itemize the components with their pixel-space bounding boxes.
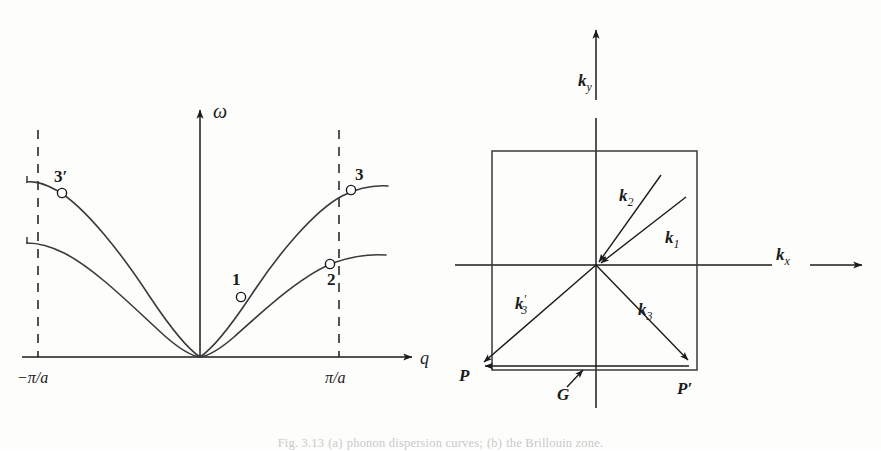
caption-part-a-marker: (a) (328, 436, 342, 450)
caption-part-a-text: phonon dispersion curves; (347, 436, 483, 450)
omega-axis-label: ω (213, 100, 227, 122)
marker-point-2[interactable] (325, 259, 334, 268)
ky-axis-label-sub: y (586, 80, 593, 94)
panel-b-group: ky kx k2 k1 k3 k′3 P (455, 30, 862, 408)
point-P-prime-label: P′ (676, 379, 692, 398)
caption-part-b-marker: (b) (487, 436, 502, 450)
q-axis-label: q (420, 348, 429, 368)
zone-boundary-left-label: −π/a (17, 369, 48, 386)
marker-point-3-prime[interactable] (57, 188, 66, 197)
caption-part-b-text: the Brillouin zone. (506, 436, 603, 450)
vector-k3-label-sub: 3 (646, 309, 653, 323)
vector-k1-label: k1 (665, 228, 680, 251)
panel-a-group: ω q −π/a π/a 3′ 3 1 2 (17, 100, 429, 386)
ky-axis-label: ky (578, 71, 593, 94)
point-G-label: G (557, 385, 570, 404)
vector-k3-prime-label-sub: 3 (520, 303, 527, 317)
marker-label-1: 1 (232, 270, 241, 289)
vector-k3-prime-label: k′3 (515, 292, 527, 317)
point-P-label: P (458, 366, 470, 385)
kx-axis-label-sub: x (784, 254, 791, 268)
kx-axis-label: kx (776, 245, 791, 268)
marker-label-2: 2 (327, 270, 336, 289)
vector-k1-label-sub: 1 (674, 237, 680, 251)
marker-point-3[interactable] (346, 185, 355, 194)
marker-point-1[interactable] (236, 292, 245, 301)
vector-k2-label-sub: 2 (628, 195, 634, 209)
caption-figure-number: Fig. 3.13 (278, 436, 325, 450)
vector-k3-prime (484, 265, 596, 362)
vector-k2-label: k2 (619, 186, 634, 209)
figure-caption: Fig. 3.13(a)phonon dispersion curves;(b)… (0, 436, 881, 451)
zone-boundary-right-label: π/a (325, 369, 345, 386)
vector-k3-label: k3 (638, 300, 653, 323)
marker-label-3-prime: 3′ (54, 167, 67, 186)
marker-label-3: 3 (355, 165, 364, 184)
vector-k2 (599, 175, 661, 262)
G-pointer-tick (567, 370, 583, 387)
